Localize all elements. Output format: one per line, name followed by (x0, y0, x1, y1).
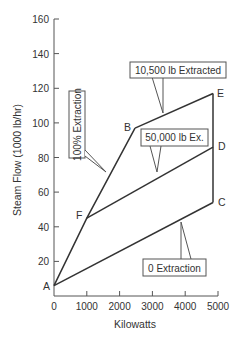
svg-text:0 Extraction: 0 Extraction (148, 263, 201, 274)
svg-text:10,500 lb Extracted: 10,500 lb Extracted (135, 65, 221, 76)
x-tick-0: 0 (51, 301, 57, 312)
x-tick-2000: 2000 (108, 301, 131, 312)
y-tick-160: 160 (32, 14, 49, 25)
point-label-d: D (218, 140, 226, 152)
y-tick-labels: 160 140 120 100 80 60 40 20 (32, 14, 49, 267)
y-tick-80: 80 (38, 153, 50, 164)
line-b-e (135, 94, 213, 129)
point-label-b: B (124, 121, 131, 133)
point-label-a: A (43, 280, 50, 292)
y-tick-100: 100 (32, 118, 49, 129)
callout-50000-ex: 50,000 lb Ex. (141, 129, 208, 172)
steam-flow-chart: 160 140 120 100 80 60 40 20 0 1000 2000 … (0, 0, 243, 344)
line-a-f-b (54, 128, 135, 286)
y-tick-60: 60 (38, 187, 50, 198)
y-tick-120: 120 (32, 83, 49, 94)
x-tick-5000: 5000 (207, 301, 230, 312)
y-axis-title: Steam Flow (1000 lb/hr) (11, 104, 23, 216)
point-label-c: C (218, 196, 226, 208)
svg-text:50,000 lb Ex.: 50,000 lb Ex. (145, 132, 203, 143)
y-tick-40: 40 (38, 222, 50, 233)
y-tick-20: 20 (38, 256, 50, 267)
x-tick-labels: 0 1000 2000 3000 4000 5000 (51, 301, 229, 312)
x-tick-4000: 4000 (174, 301, 197, 312)
point-label-f: F (76, 209, 82, 221)
x-axis-title: Kilowatts (114, 318, 156, 330)
callout-10500-extracted: 10,500 lb Extracted (130, 62, 226, 113)
y-tick-140: 140 (32, 49, 49, 60)
x-tick-1000: 1000 (76, 301, 99, 312)
point-label-e: E (217, 87, 224, 99)
callout-100-extraction: 100% Extraction (69, 88, 106, 172)
callout-0-extraction: 0 Extraction (143, 222, 206, 276)
x-tick-3000: 3000 (141, 301, 164, 312)
svg-text:100% Extraction: 100% Extraction (72, 88, 83, 161)
